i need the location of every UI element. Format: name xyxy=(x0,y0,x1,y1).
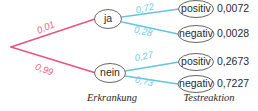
node-ja-negativ: negativ xyxy=(178,26,214,43)
stage-caption-erkrankung: Erkrankung xyxy=(86,92,137,103)
node-nein: nein xyxy=(95,64,126,83)
outcome-value-nein-negativ: 0,7227 xyxy=(217,77,249,89)
probability-label-nein-positiv: 0,27 xyxy=(134,48,155,63)
node-nein-positiv-label: positiv xyxy=(181,55,212,67)
outcome-value-nein-positiv: 0,2673 xyxy=(217,55,249,67)
probability-label-ja-negativ: 0,28 xyxy=(133,24,154,39)
node-ja-positiv-label: positiv xyxy=(181,2,212,14)
probability-label-nein: 0,99 xyxy=(34,61,56,78)
node-nein-negativ-label: negativ xyxy=(179,77,214,89)
node-ja-label: ja xyxy=(103,12,112,24)
stage-caption-testreaktion: Testreaktion xyxy=(183,92,234,103)
branch-nein-to-positiv xyxy=(125,62,179,71)
node-nein-label: nein xyxy=(100,66,120,78)
tree-canvas: 0,01 0,99 0,72 0,28 0,27 0,73 ja nein po… xyxy=(0,0,258,111)
node-ja: ja xyxy=(95,10,122,29)
node-nein-positiv: positiv xyxy=(179,54,214,71)
probability-label-nein-negativ: 0,73 xyxy=(134,74,155,89)
node-ja-positiv: positiv xyxy=(179,1,214,18)
probability-tree-diagram: 0,01 0,99 0,72 0,28 0,27 0,73 ja nein po… xyxy=(0,0,258,111)
outcome-value-ja-positiv: 0,0072 xyxy=(217,2,249,14)
node-ja-negativ-label: negativ xyxy=(179,27,214,39)
outcome-value-ja-negativ: 0,0028 xyxy=(217,27,249,39)
node-nein-negativ: negativ xyxy=(178,76,214,93)
